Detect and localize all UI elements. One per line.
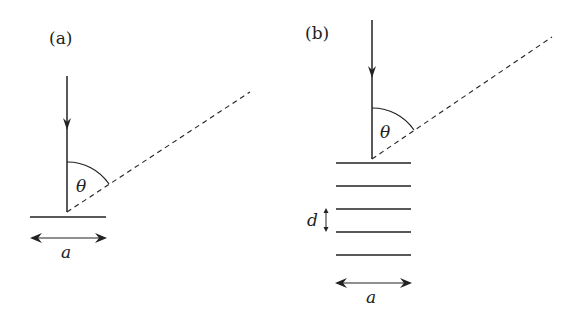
width-label-b: a <box>366 287 376 307</box>
angle-arc-b <box>372 108 414 130</box>
panel-b: (b) θ d a <box>305 20 552 307</box>
theta-label-a: θ <box>76 176 86 196</box>
scattered-ray-b <box>372 37 552 159</box>
arrow-up-icon <box>324 208 329 213</box>
panel-b-label: (b) <box>305 23 329 43</box>
angle-arc-a <box>67 162 109 184</box>
panel-a-label: (a) <box>49 28 72 48</box>
panel-a: (a) θ a <box>30 28 250 262</box>
scattered-ray-a <box>67 92 250 212</box>
arrow-down-small-icon <box>324 227 329 232</box>
width-label-a: a <box>61 242 71 262</box>
layer-stack-b <box>336 163 411 255</box>
diffraction-diagram: (a) θ a (b) θ <box>0 0 584 316</box>
spacing-label-b: d <box>307 210 318 230</box>
theta-label-b: θ <box>380 122 390 142</box>
